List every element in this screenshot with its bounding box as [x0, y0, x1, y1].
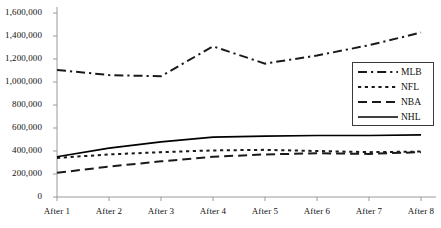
x-axis-tick-label: After 4	[187, 206, 239, 216]
legend-item-mlb[interactable]: MLB	[357, 65, 422, 79]
x-axis-tick-label: After 1	[31, 206, 83, 216]
legend-swatch-nba-icon	[357, 97, 399, 107]
legend-item-nba[interactable]: NBA	[357, 95, 421, 109]
legend[interactable]: MLBNFLNBANHL	[352, 62, 434, 126]
legend-label: MLB	[401, 67, 422, 77]
legend-item-nfl[interactable]: NFL	[357, 80, 419, 94]
x-axis-tick-label: After 2	[83, 206, 135, 216]
legend-label: NBA	[401, 97, 421, 107]
legend-label: NFL	[401, 82, 419, 92]
x-axis-tick-label: After 6	[291, 206, 343, 216]
x-axis-tick-label: After 7	[343, 206, 395, 216]
line-chart: 0200,000400,000600,000800,0001,000,0001,…	[0, 0, 441, 228]
legend-swatch-mlb-icon	[357, 67, 399, 77]
legend-swatch-nhl-icon	[357, 112, 399, 122]
x-axis-tick-label: After 5	[239, 206, 291, 216]
x-axis-tick-label: After 8	[395, 206, 441, 216]
legend-item-nhl[interactable]: NHL	[357, 110, 421, 124]
legend-label: NHL	[401, 112, 421, 122]
legend-swatch-nfl-icon	[357, 82, 399, 92]
x-axis-tick-label: After 3	[135, 206, 187, 216]
